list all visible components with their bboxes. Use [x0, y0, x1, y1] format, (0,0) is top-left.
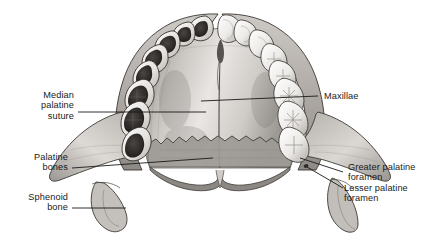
label-palatine-bones-line1: Palatine	[0, 152, 68, 162]
label-sphenoid-bone: Sphenoid bone	[0, 192, 68, 213]
label-palatine-bones-line2: bones	[0, 162, 68, 172]
label-lesser-palatine-foramen-line1: Lesser palatine	[344, 183, 408, 193]
label-median-palatine-suture: Median palatine suture	[0, 90, 74, 121]
label-lesser-palatine-foramen: Lesser palatine foramen	[344, 183, 408, 204]
label-median-palatine-suture-line2: palatine	[0, 100, 74, 110]
label-median-palatine-suture-line1: Median	[0, 90, 74, 100]
label-sphenoid-bone-line1: Sphenoid	[0, 192, 68, 202]
label-greater-palatine-foramen: Greater palatine foramen	[348, 162, 415, 183]
label-greater-palatine-foramen-line1: Greater palatine	[348, 162, 415, 172]
label-sphenoid-bone-line2: bone	[0, 202, 68, 212]
label-greater-palatine-foramen-line2: foramen	[348, 172, 415, 182]
label-maxillae-line1: Maxillae	[324, 91, 359, 101]
label-lesser-palatine-foramen-line2: foramen	[344, 193, 408, 203]
label-palatine-bones: Palatine bones	[0, 152, 68, 173]
label-maxillae: Maxillae	[324, 91, 359, 101]
label-median-palatine-suture-line3: suture	[0, 111, 74, 121]
palatine-bones-region	[148, 136, 293, 167]
